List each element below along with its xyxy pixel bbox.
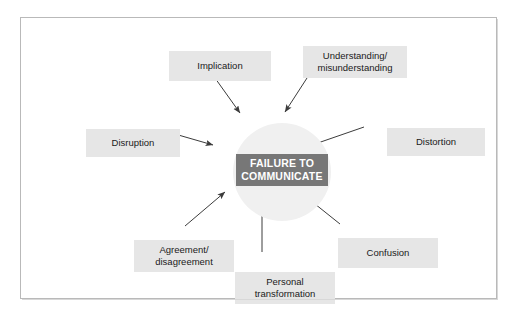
node-agreement-label: Agreement/ disagreement [155,244,213,268]
node-personal-transformation[interactable]: Personal transformation [235,272,335,304]
diagram-frame: FAILURE TO COMMUNICATE Implication Under… [20,17,497,299]
node-personal-transformation-label: Personal transformation [255,276,316,300]
node-confusion-label: Confusion [367,247,410,259]
node-implication[interactable]: Implication [169,51,271,81]
node-disruption-label: Disruption [112,137,155,149]
node-distortion-label: Distortion [416,136,456,148]
diagram-canvas: FAILURE TO COMMUNICATE Implication Under… [0,0,517,320]
node-understanding[interactable]: Understanding/ misunderstanding [303,46,407,78]
hub-label-text: FAILURE TO COMMUNICATE [241,157,322,183]
node-implication-label: Implication [197,60,242,72]
node-agreement[interactable]: Agreement/ disagreement [134,240,234,272]
node-disruption[interactable]: Disruption [86,129,180,157]
node-distortion[interactable]: Distortion [387,128,485,156]
arrow-agreement-to-hub [185,192,225,226]
node-understanding-label: Understanding/ misunderstanding [318,50,393,74]
node-confusion[interactable]: Confusion [338,238,438,268]
hub-label: FAILURE TO COMMUNICATE [236,154,328,186]
